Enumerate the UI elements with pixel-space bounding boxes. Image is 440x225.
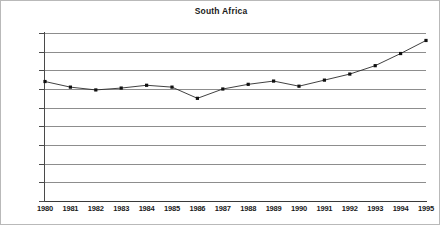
data-point-marker	[69, 86, 72, 89]
data-point-marker	[424, 39, 427, 42]
data-point-marker	[348, 72, 351, 75]
data-point-marker	[43, 80, 46, 83]
chart-figure: South Africa 020000400006000080000100000…	[0, 0, 440, 225]
data-point-marker	[272, 79, 275, 82]
data-point-marker	[399, 52, 402, 55]
data-point-marker	[196, 97, 199, 100]
data-point-marker	[170, 86, 173, 89]
data-point-marker	[94, 88, 97, 91]
data-point-marker	[247, 83, 250, 86]
data-point-marker	[221, 87, 224, 90]
data-point-marker	[323, 79, 326, 82]
data-point-marker	[120, 86, 123, 89]
series-line-south-africa	[45, 40, 426, 98]
data-point-marker	[374, 64, 377, 67]
data-series-layer	[1, 1, 440, 225]
data-point-marker	[145, 84, 148, 87]
data-point-marker	[297, 85, 300, 88]
series-marker-group	[43, 39, 427, 100]
